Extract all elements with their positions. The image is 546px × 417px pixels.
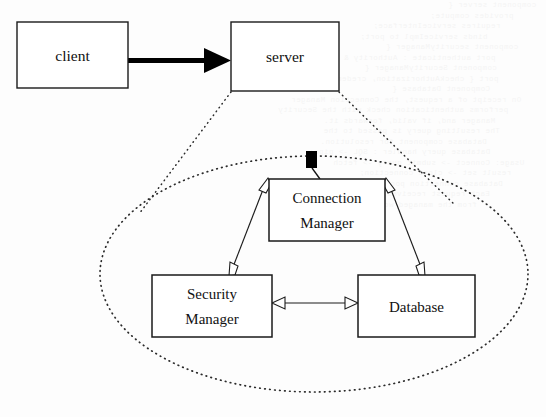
sm-db-head-right xyxy=(345,297,358,309)
cm-sm-shaft xyxy=(233,187,264,267)
cm-db-head-lower xyxy=(416,262,425,276)
connection-manager-box[interactable] xyxy=(269,179,385,241)
cm-db-shaft xyxy=(390,187,421,267)
client-label: client xyxy=(55,47,90,64)
entry-marker-block xyxy=(306,151,317,168)
node-security-manager[interactable]: Security Manager xyxy=(152,275,272,337)
cm-sm-head-lower xyxy=(229,262,238,276)
diagram-canvas: component server { provides compute; req… xyxy=(0,0,546,417)
security-manager-box[interactable] xyxy=(152,275,272,337)
zoom-callout-group xyxy=(100,92,528,392)
connection-manager-label-line2: Manager xyxy=(300,215,353,231)
node-client[interactable]: client xyxy=(17,22,128,88)
security-manager-label-line2: Manager xyxy=(185,311,238,327)
node-database[interactable]: Database xyxy=(358,275,475,337)
edge-connection-manager-to-database xyxy=(383,178,425,276)
client-server-arrowhead xyxy=(204,48,231,73)
node-connection-manager[interactable]: Connection Manager xyxy=(269,179,385,241)
entry-marker-stem xyxy=(312,168,320,179)
connection-manager-label-line1: Connection xyxy=(292,190,362,206)
edge-connection-manager-to-security-manager xyxy=(229,178,271,276)
server-entry-marker-group xyxy=(306,151,320,179)
edge-security-manager-to-database xyxy=(272,297,358,309)
server-label: server xyxy=(266,48,305,65)
sm-db-head-left xyxy=(272,297,285,309)
database-label: Database xyxy=(389,299,444,315)
security-manager-label-line1: Security xyxy=(187,286,237,302)
diagram-svg: client server xyxy=(0,0,546,417)
edge-client-to-server xyxy=(128,48,231,73)
node-server[interactable]: server xyxy=(231,22,339,91)
